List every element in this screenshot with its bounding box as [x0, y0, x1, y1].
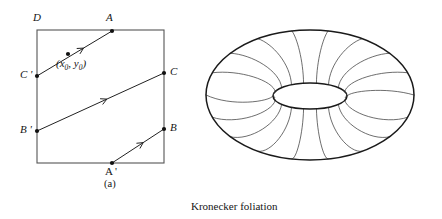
foliation-curve-1	[345, 100, 408, 119]
panel-a-drawing	[0, 0, 200, 219]
flow-lines-group	[37, 31, 164, 163]
foliation-curve-8	[212, 100, 275, 119]
coord-close-paren: )	[82, 57, 86, 69]
point-dot-mid-seg	[66, 52, 70, 56]
label-point-D: D	[33, 12, 41, 23]
foliation-curve-4	[316, 109, 328, 159]
foliation-curve-15	[329, 39, 363, 85]
foliation-curve-13	[292, 31, 304, 83]
foliation-curve-9	[206, 95, 273, 102]
line-Bp-C	[37, 73, 164, 131]
unit-square-border	[37, 30, 164, 163]
point-dot-A	[110, 29, 114, 33]
foliation-curve-5	[292, 109, 304, 159]
foliation-curve-16	[338, 53, 389, 87]
foliation-curve-2	[338, 104, 389, 137]
foliation-curve-3	[329, 107, 363, 151]
torus-outline-group	[206, 30, 414, 160]
label-point-B-prime: B '	[20, 124, 32, 135]
label-point-B: B	[170, 122, 177, 133]
kronecker-foliation-figure: D A C B C ' B ' A ' (x0, y0) (a) (b) Kro…	[0, 0, 442, 219]
torus-inner-hole	[273, 83, 347, 109]
point-dot-Cp	[35, 74, 39, 78]
marked-points-group	[35, 29, 166, 165]
foliation-curve-17	[345, 72, 408, 91]
point-dot-B	[162, 127, 166, 131]
square-outline	[37, 30, 164, 163]
foliation-curve-0	[347, 90, 414, 96]
line-Ap-B-arrowhead	[137, 143, 143, 149]
foliation-curve-12	[258, 39, 292, 85]
foliation-curve-6	[258, 107, 292, 151]
foliation-curve-11	[230, 53, 281, 87]
label-initial-point-coordinates: (x0, y0)	[56, 58, 86, 72]
panel-b-torus: (b)	[200, 0, 442, 219]
panel-a-fundamental-square: D A C B C ' B ' A ' (x0, y0) (a)	[0, 0, 200, 219]
label-point-C: C	[170, 66, 177, 77]
figure-caption: Kronecker foliation	[191, 200, 277, 212]
point-dot-Bp	[35, 129, 39, 133]
subcaption-a: (a)	[104, 178, 116, 189]
line-Ap-B	[112, 129, 164, 163]
label-point-C-prime: C '	[20, 69, 32, 80]
panel-b-drawing	[200, 0, 442, 219]
foliation-curve-10	[212, 72, 275, 91]
foliation-curve-7	[230, 104, 281, 137]
label-point-A: A	[106, 12, 113, 23]
label-point-A-prime: A '	[105, 166, 117, 177]
foliation-curve-14	[316, 31, 328, 83]
point-dot-C	[162, 71, 166, 75]
